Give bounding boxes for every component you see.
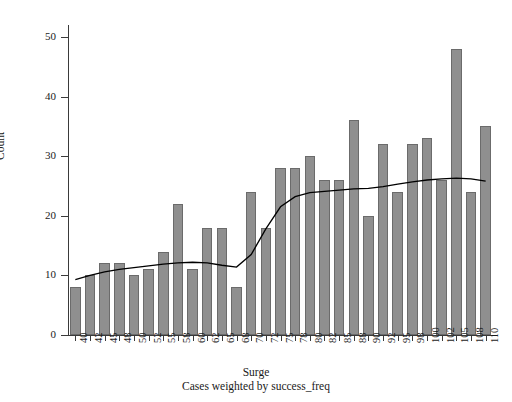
bar [349, 120, 360, 335]
bar [143, 269, 154, 335]
x-axis-label: 50 [138, 333, 149, 344]
x-axis-tick [456, 336, 457, 341]
x-axis-tick [105, 336, 106, 341]
bar [129, 275, 140, 335]
bar [305, 156, 316, 335]
x-axis-tick [149, 336, 150, 341]
x-axis-tick [178, 336, 179, 341]
bar [246, 192, 257, 335]
x-axis-label: 92 [387, 333, 398, 344]
histogram-chart: Count 01020304050 4042454850525558606265… [0, 0, 512, 402]
x-axis-label: 88 [358, 333, 369, 344]
bar [173, 204, 184, 335]
x-axis-tick [442, 336, 443, 341]
bar [261, 228, 272, 335]
x-axis-label: 80 [314, 333, 325, 344]
x-axis-label: 40 [79, 333, 90, 344]
bar [99, 263, 110, 335]
bar [187, 269, 198, 335]
x-axis-label: 108 [475, 327, 486, 343]
bar [378, 144, 389, 335]
y-axis-label: 50 [26, 31, 56, 42]
y-axis-tick [61, 37, 68, 38]
x-axis-tick [75, 336, 76, 341]
bar [275, 168, 286, 335]
bar [363, 216, 374, 335]
x-axis-label: 72 [270, 333, 281, 344]
bar [334, 180, 345, 335]
x-axis-tick [222, 336, 223, 341]
x-axis-label: 102 [446, 327, 457, 343]
x-axis-tick [119, 336, 120, 341]
bar [436, 180, 447, 335]
x-axis-label: 75 [285, 333, 296, 344]
x-axis-label: 95 [402, 333, 413, 344]
y-axis-tick [61, 275, 68, 276]
bar [158, 252, 169, 335]
y-axis-label: 20 [26, 210, 56, 221]
bar [466, 192, 477, 335]
bar [114, 263, 125, 335]
y-axis-tick [61, 156, 68, 157]
x-axis-label: 60 [197, 333, 208, 344]
y-axis-label: 40 [26, 91, 56, 102]
x-axis-tick [486, 336, 487, 341]
x-axis-tick [398, 336, 399, 341]
x-axis-tick [310, 336, 311, 341]
x-axis-tick [324, 336, 325, 341]
x-axis-tick [281, 336, 282, 341]
x-axis-tick [471, 336, 472, 341]
x-axis-label: 45 [109, 333, 120, 344]
bar [392, 192, 403, 335]
x-axis-tick [354, 336, 355, 341]
y-axis-label: 30 [26, 150, 56, 161]
bar [202, 228, 213, 335]
x-axis-label: 85 [343, 333, 354, 344]
bar [480, 126, 491, 335]
bar [422, 138, 433, 335]
x-axis-label: 52 [153, 333, 164, 344]
y-axis-tick [61, 97, 68, 98]
x-axis-label: 42 [94, 333, 105, 344]
bar [319, 180, 330, 335]
x-axis-label: 65 [226, 333, 237, 344]
x-axis-label: 82 [328, 333, 339, 344]
y-axis-tick [61, 335, 68, 336]
y-axis-label: 0 [26, 329, 56, 340]
x-axis-label: 98 [416, 333, 427, 344]
bar [290, 168, 301, 335]
bar [231, 287, 242, 335]
weight-note: Cases weighted by success_freq [0, 380, 512, 392]
x-axis-label: 55 [167, 333, 178, 344]
x-axis-label: 105 [460, 327, 471, 343]
y-axis-label: 10 [26, 269, 56, 280]
x-axis-tick [163, 336, 164, 341]
x-axis-tick [134, 336, 135, 341]
x-axis-tick [412, 336, 413, 341]
x-axis-label: 100 [431, 327, 442, 343]
x-axis-tick [207, 336, 208, 341]
bar [85, 275, 96, 335]
bar [70, 287, 81, 335]
x-axis-label: 78 [299, 333, 310, 344]
x-axis-title: Surge [0, 366, 512, 378]
x-axis-label: 68 [241, 333, 252, 344]
x-axis-label: 48 [123, 333, 134, 344]
y-axis-title: Count [0, 132, 6, 160]
x-axis-label: 90 [372, 333, 383, 344]
x-axis-tick [266, 336, 267, 341]
bar [407, 144, 418, 335]
x-axis-tick [251, 336, 252, 341]
x-axis-tick [368, 336, 369, 341]
x-axis-tick [193, 336, 194, 341]
x-axis-tick [90, 336, 91, 341]
x-axis-label: 110 [490, 328, 501, 343]
x-axis-label: 70 [255, 333, 266, 344]
x-axis-tick [427, 336, 428, 341]
bar [451, 49, 462, 335]
x-axis-tick [339, 336, 340, 341]
x-axis-label: 58 [182, 333, 193, 344]
bar-group [68, 25, 493, 335]
y-axis-tick [61, 216, 68, 217]
x-axis-tick [237, 336, 238, 341]
